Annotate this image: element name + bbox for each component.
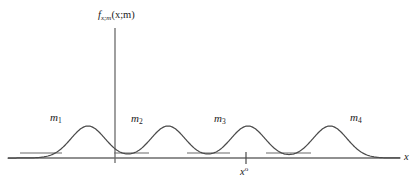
mode-label-m1: m1 [50, 112, 62, 123]
mode-label-m1-subscript: 1 [58, 116, 62, 125]
mode-label-m2-base: m [131, 112, 139, 124]
mode-label-m3-subscript: 3 [222, 117, 226, 126]
y-axis-label-subscript: x;m [101, 14, 112, 22]
mode-label-m3-base: m [214, 112, 222, 124]
x-naught-base: x [240, 166, 245, 177]
density-curve [8, 126, 400, 158]
mode-label-m3: m3 [214, 113, 226, 124]
y-axis-label-args: (x;m) [111, 9, 134, 20]
mode-label-m4-base: m [350, 111, 358, 123]
mode-label-m4: m4 [350, 112, 362, 123]
likelihood-function-figure: fx;m(x;m) x xo m1 m2 m3 m4 [0, 0, 418, 189]
mode-label-m2: m2 [131, 113, 143, 124]
x-axis-label: x [404, 152, 409, 163]
x-naught-superscript: o [245, 165, 249, 173]
mode-label-m2-subscript: 2 [139, 117, 143, 126]
mode-label-m1-base: m [50, 111, 58, 123]
y-axis-label: fx;m(x;m) [98, 10, 135, 21]
mode-label-m4-subscript: 4 [358, 116, 362, 125]
x-naught-label: xo [240, 167, 248, 178]
figure-canvas [0, 0, 418, 189]
